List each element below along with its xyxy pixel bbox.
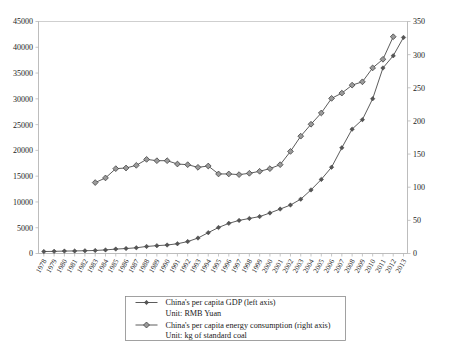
left-tick-label: 5000 bbox=[17, 224, 33, 233]
x-axis: 1978197919801981198219831984198519861987… bbox=[34, 254, 408, 275]
legend-unit-2: Unit: kg of standard coal bbox=[166, 331, 248, 340]
right-tick-label: 350 bbox=[413, 17, 425, 26]
legend-label-1: China's per capita GDP (left axis) bbox=[166, 298, 276, 307]
legend-unit-1: Unit: RMB Yuan bbox=[166, 309, 222, 318]
left-tick-label: 30000 bbox=[13, 95, 33, 104]
legend-label-2: China's per capita energy consumption (r… bbox=[166, 321, 331, 330]
left-tick-label: 15000 bbox=[13, 172, 33, 181]
left-tick-label: 25000 bbox=[13, 121, 33, 130]
right-tick-label: 250 bbox=[413, 84, 425, 93]
left-axis: 0500010000150002000025000300003500040000… bbox=[13, 17, 39, 258]
left-tick-label: 35000 bbox=[13, 69, 33, 78]
chart-figure: 0500010000150002000025000300003500040000… bbox=[0, 0, 454, 361]
left-tick-label: 40000 bbox=[13, 43, 33, 52]
line-chart: 0500010000150002000025000300003500040000… bbox=[0, 0, 454, 361]
left-tick-label: 20000 bbox=[13, 146, 33, 155]
plot-frame bbox=[39, 22, 408, 254]
left-tick-label: 10000 bbox=[13, 198, 33, 207]
right-tick-label: 0 bbox=[413, 249, 417, 258]
right-tick-label: 200 bbox=[413, 117, 425, 126]
left-tick-label: 45000 bbox=[13, 17, 33, 26]
left-tick-label: 0 bbox=[29, 249, 33, 258]
right-axis: 050100150200250300350 bbox=[408, 17, 426, 258]
chart-legend: China's per capita GDP (left axis)Unit: … bbox=[126, 297, 346, 341]
right-tick-label: 150 bbox=[413, 150, 425, 159]
right-tick-label: 300 bbox=[413, 51, 425, 60]
right-tick-label: 50 bbox=[413, 216, 421, 225]
right-tick-label: 100 bbox=[413, 183, 425, 192]
x-tick-label: 2013 bbox=[394, 258, 408, 275]
plot-area bbox=[39, 22, 408, 254]
